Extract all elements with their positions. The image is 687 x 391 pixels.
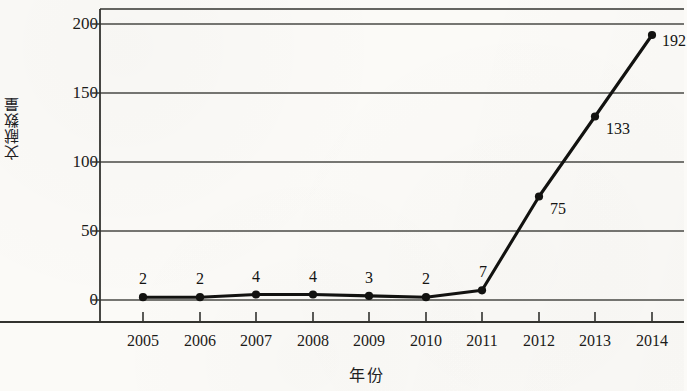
data-label-2008: 4 <box>309 268 317 286</box>
data-label-2007: 4 <box>252 268 260 286</box>
data-label-2011: 7 <box>479 263 487 281</box>
data-label-2010: 2 <box>422 270 430 288</box>
data-label-2005: 2 <box>139 270 147 288</box>
data-label-2006: 2 <box>196 270 204 288</box>
data-label-2012: 75 <box>550 200 566 218</box>
data-label-2014: 192 <box>662 32 686 50</box>
data-label-2009: 3 <box>365 269 373 287</box>
data-label-2013: 133 <box>606 120 630 138</box>
